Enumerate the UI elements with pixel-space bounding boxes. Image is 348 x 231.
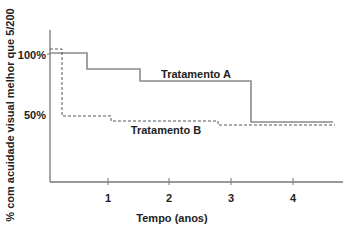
annotation-tratamento-b: Tratamento B bbox=[131, 124, 201, 136]
x-tick-label-3: 3 bbox=[228, 192, 234, 204]
y-axis-title: % com acuidade visual melhor que 5/200 bbox=[4, 8, 16, 221]
x-tick-label-1: 1 bbox=[105, 192, 111, 204]
annotation-tratamento-a: Tratamento A bbox=[161, 68, 231, 80]
x-tick-label-4: 4 bbox=[290, 192, 297, 204]
x-tick-label-2: 2 bbox=[166, 192, 172, 204]
kaplan-meier-chart: 1 2 3 4 100% 50% Tempo (anos) % com acui… bbox=[0, 0, 348, 231]
x-axis-title: Tempo (anos) bbox=[136, 212, 208, 224]
series-tratamento-a-line bbox=[50, 53, 333, 122]
y-tick-label-100: 100% bbox=[18, 49, 46, 61]
series-tratamento-b-line bbox=[50, 49, 335, 125]
y-tick-label-50: 50% bbox=[24, 109, 46, 121]
